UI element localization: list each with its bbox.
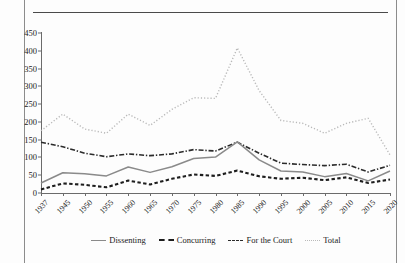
x-axis-tick-mark [216,193,217,196]
y-axis-tick-mark [38,33,41,34]
y-axis-tick-mark [38,50,41,51]
y-axis-tick-label: 50 [29,170,38,180]
legend-swatch-icon [305,240,320,241]
y-axis-tick-label: 150 [24,135,37,145]
x-axis-tick-label: 2000 [294,198,312,216]
series-line-concurring [41,171,390,190]
x-axis-tick-label: 1980 [207,198,225,216]
x-axis-tick-label: 1945 [54,198,72,216]
series-line-total [41,48,390,155]
y-axis-tick-mark [38,68,41,69]
y-axis-tick-label: 300 [24,81,37,91]
y-axis-tick-label: 350 [24,64,37,74]
x-axis-tick-label: 1990 [251,198,269,216]
x-axis-tick-mark [390,193,391,196]
y-axis-tick-mark [38,139,41,140]
y-axis-tick-label: 100 [24,152,37,162]
series-lines [41,33,390,193]
legend-item-total[interactable]: Total [305,235,340,245]
legend-item-for-the-court[interactable]: For the Court [228,235,292,245]
x-axis-tick-label: 2015 [360,198,378,216]
y-axis-tick-label: 450 [24,28,37,38]
x-axis-tick-label: 1955 [98,198,116,216]
x-axis-tick-label: 1960 [120,198,138,216]
legend-item-concurring[interactable]: Concurring [159,235,216,245]
x-axis-tick-label: 2010 [338,198,356,216]
y-axis-tick-label: 0 [33,188,37,198]
legend-item-label: Total [323,235,340,245]
x-axis-tick-label: 1950 [76,198,94,216]
x-axis-tick-mark [194,193,195,196]
chart-page: 0501001502002503003504004501937194519501… [0,0,405,263]
legend-item-label: Dissenting [109,235,145,245]
x-axis-tick-mark [346,193,347,196]
x-axis-tick-label: 1995 [273,198,291,216]
title-divider [33,12,388,13]
x-axis-tick-mark [368,193,369,196]
x-axis-tick-mark [259,193,260,196]
x-axis-tick-label: 1970 [164,198,182,216]
x-axis-tick-mark [128,193,129,196]
y-axis-tick-mark [38,104,41,105]
x-axis-tick-label: 1985 [229,198,247,216]
legend-item-label: Concurring [177,235,216,245]
legend-swatch-icon [159,239,174,241]
x-axis-tick-mark [41,193,42,196]
x-axis-tick-label: 1975 [185,198,203,216]
y-axis-tick-label: 250 [24,99,37,109]
y-axis-tick-mark [38,157,41,158]
y-axis-tick-label: 200 [24,117,37,127]
page-right-margin-rule [396,0,397,263]
y-axis-tick-mark [38,121,41,122]
x-axis-tick-mark [281,193,282,196]
x-axis-tick-mark [85,193,86,196]
legend-swatch-icon [228,240,243,241]
chart-legend: DissentingConcurringFor the CourtTotal [41,232,391,248]
x-axis-tick-label: 1937 [33,198,51,216]
legend-item-dissenting[interactable]: Dissenting [91,235,145,245]
x-axis-tick-mark [303,193,304,196]
y-axis-tick-label: 400 [24,46,37,56]
x-axis-tick-label: 1965 [142,198,160,216]
x-axis-tick-mark [237,193,238,196]
x-axis-tick-mark [150,193,151,196]
x-axis-tick-mark [106,193,107,196]
page-left-margin-rule [24,0,25,263]
plot-area: 0501001502002503003504004501937194519501… [41,33,390,193]
series-line-dissenting [41,142,390,183]
x-axis-tick-mark [63,193,64,196]
legend-item-label: For the Court [246,235,292,245]
x-axis-tick-mark [325,193,326,196]
x-axis-tick-label: 2005 [316,198,334,216]
x-axis-tick-mark [172,193,173,196]
y-axis-tick-mark [38,86,41,87]
legend-swatch-icon [91,240,106,241]
chart-title-fragment [33,0,388,10]
y-axis-tick-mark [38,175,41,176]
